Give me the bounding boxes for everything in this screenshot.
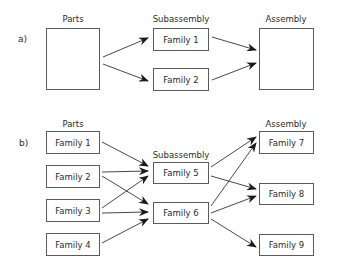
arrow-icon — [211, 176, 256, 189]
arrow-icon — [102, 171, 148, 172]
arrow-icon — [211, 219, 256, 247]
arrow-icon — [212, 63, 256, 80]
arrow-layer — [0, 0, 337, 274]
arrow-icon — [211, 196, 256, 213]
arrow-icon — [102, 142, 148, 166]
arrow-icon — [102, 212, 148, 213]
arrow-icon — [103, 38, 148, 57]
arrow-icon — [102, 176, 148, 208]
arrow-icon — [212, 37, 256, 50]
arrow-icon — [102, 219, 148, 243]
arrow-icon — [103, 64, 148, 81]
arrow-icon — [102, 176, 148, 204]
